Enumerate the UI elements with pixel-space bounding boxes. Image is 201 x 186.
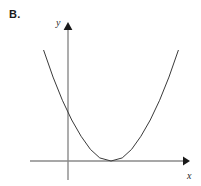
curve-group bbox=[44, 50, 179, 161]
parabola-figure: B. y x bbox=[0, 0, 201, 186]
x-axis-arrowhead bbox=[183, 157, 190, 166]
coordinate-plot: y x bbox=[0, 0, 201, 186]
axes-group bbox=[30, 22, 190, 180]
x-axis-label: x bbox=[186, 170, 192, 181]
parabola-curve bbox=[44, 50, 179, 161]
y-axis-arrowhead bbox=[64, 22, 73, 30]
y-axis-label: y bbox=[55, 17, 61, 28]
